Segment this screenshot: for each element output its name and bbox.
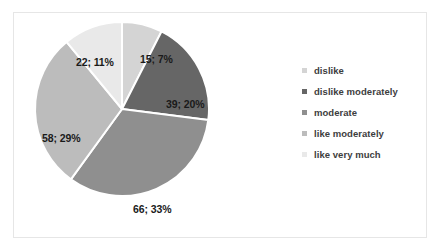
legend-item-label: moderate — [314, 107, 357, 118]
legend-item-label: like very much — [314, 149, 381, 160]
legend-swatch-icon — [302, 131, 307, 136]
pie-chart-plot-area: 15; 7% 39; 20% 66; 33% 58; 29% 22; 11% d… — [14, 13, 428, 239]
legend-item-label: like moderately — [314, 128, 384, 139]
legend-swatch-icon — [302, 68, 307, 73]
legend-item-like-moderately[interactable]: like moderately — [302, 123, 426, 144]
legend-swatch-icon — [302, 152, 307, 157]
legend-swatch-icon — [302, 110, 307, 115]
slice-label-like-very-much: 22; 11% — [76, 56, 114, 68]
chart-frame: 15; 7% 39; 20% 66; 33% 58; 29% 22; 11% d… — [13, 12, 427, 238]
legend-item-label: dislike — [314, 65, 344, 76]
slice-label-dislike: 15; 7% — [140, 53, 173, 65]
slice-label-like-moderately: 58; 29% — [42, 132, 80, 144]
slice-label-moderate: 66; 33% — [133, 203, 171, 215]
legend-item-moderate[interactable]: moderate — [302, 102, 426, 123]
chart-legend: dislike dislike moderately moderate like… — [302, 60, 426, 165]
legend-item-like-very-much[interactable]: like very much — [302, 144, 426, 165]
legend-item-dislike-moderately[interactable]: dislike moderately — [302, 81, 426, 102]
legend-item-label: dislike moderately — [314, 86, 398, 97]
slice-label-dislike-moderately: 39; 20% — [166, 98, 204, 110]
legend-item-dislike[interactable]: dislike — [302, 60, 426, 81]
legend-swatch-icon — [302, 89, 307, 94]
